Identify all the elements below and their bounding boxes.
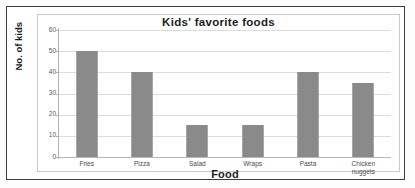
bar-pasta [297, 72, 318, 157]
x-tick-label: Fries [59, 160, 114, 168]
y-tick-mark [56, 94, 59, 95]
y-tick-label: 10 [40, 132, 56, 139]
x-tick-label: Pizza [114, 160, 169, 168]
bar-slot [280, 30, 335, 157]
y-tick-label: 50 [40, 48, 56, 55]
y-tick-label: 60 [40, 27, 56, 34]
x-tick-label-line: Pasta [280, 160, 335, 168]
bar-wraps [242, 125, 263, 157]
bar-fries [76, 51, 97, 157]
x-tick-label-line: Wraps [225, 160, 280, 168]
bar-chicken-nuggets [353, 83, 374, 157]
plot-area [59, 30, 391, 157]
y-tick-mark [56, 30, 59, 31]
x-axis-title: Food [59, 168, 391, 180]
bar-salad [187, 125, 208, 157]
x-tick-label: Pasta [280, 160, 335, 168]
x-tick-label: Salad [170, 160, 225, 168]
x-tick-label: Wraps [225, 160, 280, 168]
bar-pizza [131, 72, 152, 157]
y-axis-tick-labels: 0102030405060 [38, 30, 56, 157]
bar-slot [225, 30, 280, 157]
bar-slot [59, 30, 114, 157]
bar-slot [170, 30, 225, 157]
gridline-0 [59, 157, 391, 158]
chart-title: Kids' favorite foods [38, 16, 399, 28]
x-tick-label-line: Fries [59, 160, 114, 168]
y-axis-title: No. of kids [13, 53, 24, 71]
y-tick-mark [56, 157, 59, 158]
y-tick-mark [56, 136, 59, 137]
x-tick-label-line: Pizza [114, 160, 169, 168]
bar-slot [336, 30, 391, 157]
y-tick-label: 0 [40, 154, 56, 161]
y-tick-mark [56, 51, 59, 52]
y-tick-label: 30 [40, 90, 56, 97]
chart-image: No. of kids Kids' favorite foods 0102030… [0, 0, 415, 188]
x-tick-label-line: Salad [170, 160, 225, 168]
bar-slot [114, 30, 169, 157]
y-tick-mark [56, 115, 59, 116]
y-tick-mark [56, 72, 59, 73]
y-tick-label: 20 [40, 111, 56, 118]
y-tick-label: 40 [40, 69, 56, 76]
x-tick-label-line: Chicken [336, 160, 391, 168]
